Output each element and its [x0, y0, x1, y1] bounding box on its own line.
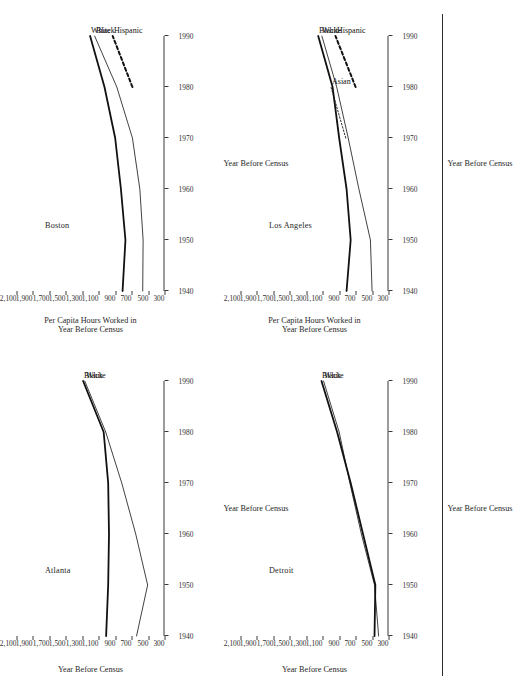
x-tick-1990: [388, 380, 392, 381]
x-tick-label-1940: 1940: [402, 287, 417, 296]
x-tick-1990: [388, 35, 392, 36]
y-tick-label-700: 700: [344, 639, 355, 648]
y-tick-label-1,500: 1,500: [49, 294, 66, 303]
x-tick-1980: [388, 431, 392, 432]
y-tick-label-500: 500: [136, 639, 147, 648]
x-tick-label-1960: 1960: [178, 185, 193, 194]
y-tick-label-700: 700: [344, 294, 355, 303]
x-tick-label-1990: 1990: [402, 377, 417, 386]
series-line-black: [83, 381, 109, 636]
y-tick-label-700: 700: [120, 294, 131, 303]
x-tick-label-1940: 1940: [178, 632, 193, 641]
y-axis-title-line1: Per Capita Hours Worked in: [239, 316, 389, 325]
x-tick-1960: [164, 188, 168, 189]
y-tick-label-2,100: 2,100: [0, 639, 16, 648]
x-tick-label-1980: 1980: [402, 428, 417, 437]
x-tick-1980: [388, 86, 392, 87]
x-tick-label-1970: 1970: [178, 134, 193, 143]
x-tick-1970: [164, 137, 168, 138]
y-axis-title-detroit: Year Before Census: [239, 665, 389, 674]
y-axis-title-line1: Per Capita Hours Worked in: [15, 316, 165, 325]
y-tick-label-2,100: 2,100: [0, 294, 16, 303]
x-tick-1990: [164, 380, 168, 381]
plot-area-boston: 194019501960197019801990 3005007009001,1…: [16, 36, 164, 291]
y-tick-label-700: 700: [120, 639, 131, 648]
y-tick-label-1,100: 1,100: [306, 294, 323, 303]
series-label-white: White: [85, 371, 105, 380]
y-tick-label-300: 300: [377, 294, 388, 303]
x-tick-label-1980: 1980: [178, 428, 193, 437]
x-tick-1980: [164, 431, 168, 432]
y-tick-label-1,700: 1,700: [32, 294, 49, 303]
y-tick-label-500: 500: [136, 294, 147, 303]
panel-boston: Boston 194019501960197019801990 30050070…: [0, 0, 224, 345]
x-tick-1970: [388, 137, 392, 138]
plot-area-atlanta: 194019501960197019801990 3005007009001,1…: [16, 381, 164, 636]
plot-area-detroit: 194019501960197019801990 3005007009001,1…: [240, 381, 388, 636]
panel-atlanta: Atlanta 194019501960197019801990 3005007…: [0, 345, 224, 690]
x-tick-label-1950: 1950: [178, 236, 193, 245]
x-tick-1980: [164, 86, 168, 87]
y-tick-label-1,900: 1,900: [16, 639, 33, 648]
series-label-hispanic: Hispanic: [337, 26, 365, 35]
x-tick-1950: [388, 239, 392, 240]
y-tick-label-1,300: 1,300: [289, 639, 306, 648]
y-axis-title-line2: Year Before Census: [15, 325, 165, 334]
series-label-hispanic: Hispanic: [114, 26, 142, 35]
y-tick-label-500: 500: [360, 294, 371, 303]
x-tick-1950: [164, 239, 168, 240]
x-tick-label-1970: 1970: [402, 134, 417, 143]
y-tick-label-1,100: 1,100: [306, 639, 323, 648]
x-tick-label-1960: 1960: [178, 530, 193, 539]
x-axis-title-los-angeles: Year Before Census: [352, 159, 517, 168]
x-tick-label-1940: 1940: [178, 287, 193, 296]
plot-area-los-angeles: 194019501960197019801990 3005007009001,1…: [240, 36, 388, 291]
x-tick-label-1970: 1970: [178, 479, 193, 488]
y-tick-label-1,300: 1,300: [65, 639, 82, 648]
y-tick-label-500: 500: [360, 639, 371, 648]
y-tick-label-1,500: 1,500: [273, 639, 290, 648]
y-tick-label-1,900: 1,900: [16, 294, 33, 303]
y-tick-label-900: 900: [104, 294, 115, 303]
x-tick-label-1980: 1980: [402, 83, 417, 92]
y-tick-label-300: 300: [153, 639, 164, 648]
y-tick-label-2,100: 2,100: [223, 294, 240, 303]
x-tick-label-1960: 1960: [402, 530, 417, 539]
y-tick-label-1,100: 1,100: [82, 639, 99, 648]
panel-los-angeles: Los Angeles 194019501960197019801990 300…: [224, 0, 448, 345]
x-tick-label-1950: 1950: [402, 236, 417, 245]
x-tick-1950: [164, 584, 168, 585]
x-tick-label-1940: 1940: [402, 632, 417, 641]
x-tick-1990: [164, 35, 168, 36]
x-tick-label-1990: 1990: [402, 32, 417, 41]
page-edge-rule: [442, 14, 443, 676]
x-tick-1960: [388, 533, 392, 534]
x-tick-label-1970: 1970: [402, 479, 417, 488]
y-tick-label-1,500: 1,500: [49, 639, 66, 648]
y-tick-label-300: 300: [153, 294, 164, 303]
x-tick-1970: [164, 482, 168, 483]
y-axis-title-boston: Per Capita Hours Worked in Year Before C…: [15, 316, 165, 335]
x-tick-label-1990: 1990: [178, 32, 193, 41]
y-tick-label-900: 900: [328, 639, 339, 648]
x-tick-label-1950: 1950: [178, 581, 193, 590]
panel-detroit: Detroit 194019501960197019801990 3005007…: [224, 345, 448, 690]
y-tick-label-1,300: 1,300: [289, 294, 306, 303]
x-tick-label-1960: 1960: [402, 185, 417, 194]
y-tick-label-900: 900: [328, 294, 339, 303]
y-tick-label-1,900: 1,900: [240, 639, 257, 648]
series-label-black: Black: [322, 371, 341, 380]
y-tick-label-1,300: 1,300: [65, 294, 82, 303]
y-axis-title-line2: Year Before Census: [239, 325, 389, 334]
y-tick-label-1,900: 1,900: [240, 294, 257, 303]
series-line-hispanic: [112, 36, 132, 87]
y-tick-label-1,500: 1,500: [273, 294, 290, 303]
y-tick-label-1,700: 1,700: [256, 639, 273, 648]
y-tick-label-1,700: 1,700: [32, 639, 49, 648]
series-line-black: [318, 36, 350, 291]
x-tick-1960: [388, 188, 392, 189]
y-tick-label-2,100: 2,100: [223, 639, 240, 648]
series-label-asian: Asian: [332, 77, 351, 86]
y-tick-label-300: 300: [377, 639, 388, 648]
series-label-black: Black: [319, 26, 338, 35]
